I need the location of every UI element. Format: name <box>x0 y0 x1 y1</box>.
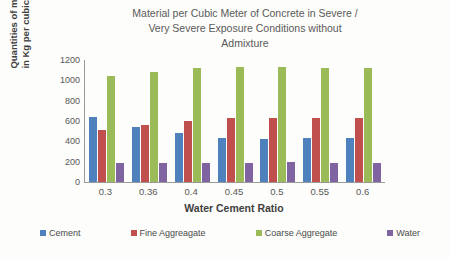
bar-coarse-aggregate-0.3 <box>107 76 115 182</box>
y-axis-tick-1000: 1000 <box>52 75 80 86</box>
bar-cement-0.36 <box>132 127 140 182</box>
bar-group-0.45 <box>214 60 257 182</box>
bar-fine-aggreagate-0.55 <box>312 118 320 182</box>
bar-cement-0.4 <box>175 133 183 182</box>
bar-group-0.36 <box>128 60 171 182</box>
y-axis-title-line-2: in Kg per cubic meter <box>20 0 32 86</box>
legend-swatch-icon <box>387 230 393 236</box>
bar-coarse-aggregate-0.6 <box>364 68 372 182</box>
bar-fine-aggreagate-0.45 <box>227 118 235 182</box>
legend-swatch-icon <box>256 230 262 236</box>
bar-water-0.4 <box>202 163 210 182</box>
x-axis-tick-0.5: 0.5 <box>255 186 298 197</box>
legend-item-coarse-aggregate[interactable]: Coarse Aggregate <box>256 228 338 238</box>
bar-water-0.3 <box>116 163 124 182</box>
bar-cement-0.6 <box>346 138 354 182</box>
x-axis-tick-0.4: 0.4 <box>170 186 213 197</box>
bar-coarse-aggregate-0.36 <box>150 72 158 182</box>
chart-legend: CementFine AggreagateCoarse AggregateWat… <box>40 228 420 238</box>
legend-item-fine-aggreagate[interactable]: Fine Aggreagate <box>131 228 206 238</box>
y-axis-title: Quantities of material in Kg per cubic m… <box>8 0 42 86</box>
y-axis-tick-600: 600 <box>52 116 80 127</box>
bar-groups <box>85 60 385 182</box>
bar-water-0.36 <box>159 163 167 182</box>
bar-cement-0.45 <box>218 138 226 182</box>
legend-item-cement[interactable]: Cement <box>40 228 81 238</box>
y-axis-title-line-1: Quantities of material <box>8 0 20 86</box>
bar-fine-aggreagate-0.4 <box>184 121 192 182</box>
bar-group-0.6 <box>342 60 385 182</box>
y-axis-tick-800: 800 <box>52 96 80 107</box>
y-axis-tick-0: 0 <box>52 177 80 188</box>
bar-coarse-aggregate-0.45 <box>236 67 244 182</box>
bar-group-0.3 <box>85 60 128 182</box>
plot-area <box>84 60 385 183</box>
x-axis-tick-labels: 0.30.360.40.450.50.550.6 <box>84 186 384 197</box>
y-axis-tick-labels: 020040060080010001200 <box>52 54 80 188</box>
chart-title: Material per Cubic Meter of Concrete in … <box>90 6 400 51</box>
bar-fine-aggreagate-0.6 <box>355 118 363 182</box>
bar-fine-aggreagate-0.5 <box>269 118 277 182</box>
legend-swatch-icon <box>131 230 137 236</box>
bar-water-0.55 <box>330 163 338 182</box>
chart-title-line-1: Material per Cubic Meter of Concrete in … <box>90 6 400 21</box>
bar-water-0.5 <box>287 162 295 182</box>
bar-water-0.6 <box>373 163 381 182</box>
bar-coarse-aggregate-0.55 <box>321 68 329 182</box>
bar-fine-aggreagate-0.3 <box>98 130 106 182</box>
bar-coarse-aggregate-0.5 <box>278 67 286 182</box>
legend-item-water[interactable]: Water <box>387 228 420 238</box>
legend-label: Water <box>396 228 420 238</box>
y-axis-tick-200: 200 <box>52 157 80 168</box>
chart-title-line-3: Admixture <box>90 36 400 51</box>
y-axis-tick-400: 400 <box>52 136 80 147</box>
x-axis-tick-0.55: 0.55 <box>298 186 341 197</box>
chart-title-line-2: Very Severe Exposure Conditions without <box>90 21 400 36</box>
bar-cement-0.55 <box>303 138 311 182</box>
x-axis-tick-0.45: 0.45 <box>213 186 256 197</box>
legend-label: Fine Aggreagate <box>140 228 206 238</box>
legend-label: Cement <box>49 228 81 238</box>
legend-label: Coarse Aggregate <box>265 228 338 238</box>
bar-water-0.45 <box>245 163 253 182</box>
legend-swatch-icon <box>40 230 46 236</box>
bar-group-0.55 <box>299 60 342 182</box>
bar-chart: Material per Cubic Meter of Concrete in … <box>0 0 450 259</box>
bar-fine-aggreagate-0.36 <box>141 125 149 182</box>
x-axis-tick-0.3: 0.3 <box>84 186 127 197</box>
x-axis-tick-0.6: 0.6 <box>341 186 384 197</box>
bar-group-0.5 <box>256 60 299 182</box>
bar-coarse-aggregate-0.4 <box>193 68 201 182</box>
x-axis-tick-0.36: 0.36 <box>127 186 170 197</box>
bar-cement-0.5 <box>260 139 268 182</box>
bar-cement-0.3 <box>89 117 97 182</box>
bar-group-0.4 <box>171 60 214 182</box>
x-axis-title: Water Cement Ratio <box>84 202 384 214</box>
y-axis-tick-1200: 1200 <box>52 55 80 66</box>
